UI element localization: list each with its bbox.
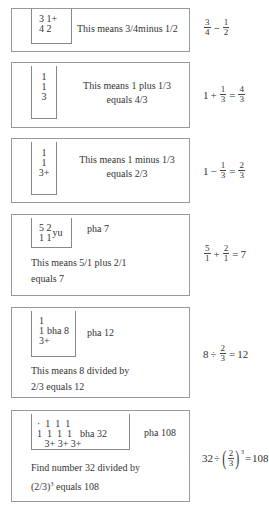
grid-row: 4 2 — [39, 24, 71, 34]
formula: 34 − 12 — [203, 18, 230, 37]
formula: 1 − 13 = 23 — [203, 161, 246, 180]
formula: 51 + 21 = 7 — [203, 244, 246, 263]
side-label: pha 7 — [87, 222, 109, 236]
formula: 1 + 13 = 43 — [203, 85, 246, 104]
counting-grid: 1 1 3 — [31, 66, 57, 119]
counting-grid: 3 1+ 4 2 — [31, 9, 72, 44]
card-3-4-minus-1-2: 3 1+ 4 2 This means 3/4minus 1/2 — [11, 8, 190, 52]
card-description: This means 3/4minus 1/2 — [77, 22, 178, 36]
card-32-divided-by-2-3-cubed: · 1 1 1 1 1 1 1 bha 32 3+ 3+ 3+ pha 108 … — [11, 410, 190, 502]
card-1-minus-1-3: 1 1 3+ This means 1 minus 1/3 equals 2/3 — [11, 138, 190, 203]
grid-row: 3+ — [32, 168, 56, 178]
fraction: 13 — [220, 85, 227, 104]
fraction: 23 — [238, 161, 245, 180]
fraction: 23 — [228, 449, 235, 468]
right-paren: ) — [236, 448, 240, 468]
fraction: 21 — [223, 244, 230, 263]
card-description: This means 1 minus 1/3 equals 2/3 — [67, 153, 187, 181]
grid-row: 1 1 — [39, 233, 52, 243]
fraction: 43 — [238, 85, 245, 104]
operator: − — [214, 22, 220, 34]
card-description: This means 8 divided by 2/3 equals 12 — [31, 363, 129, 395]
card-8-divided-by-2-3: 1 1 bha 8 3+ pha 12 This means 8 divided… — [11, 307, 190, 398]
card-5-1-plus-2-1: 5 2 1 1 yu pha 7 This means 5/1 plus 2/1… — [11, 214, 190, 296]
fraction: 12 — [223, 18, 230, 37]
fraction: 51 — [204, 244, 211, 263]
grid-suffix: yu — [53, 228, 63, 238]
card-1-plus-1-3: 1 1 3 This means 1 plus 1/3 equals 4/3 — [11, 62, 190, 128]
card-description: This means 1 plus 1/3 equals 4/3 — [67, 79, 187, 107]
left-paren: ( — [222, 448, 226, 468]
grid-suffix: bha 8 — [47, 326, 69, 336]
card-description: Find number 32 divided by (2/3)3 equals … — [31, 460, 140, 495]
fraction: 23 — [220, 344, 227, 363]
grid-suffix: bha 32 — [80, 429, 107, 439]
exponent: 3 — [241, 449, 244, 455]
grid-row: 3+ — [39, 336, 75, 346]
counting-grid: 1 1 bha 8 3+ — [31, 311, 76, 357]
fraction: 13 — [220, 161, 227, 180]
grid-row: 3 — [32, 92, 56, 102]
side-label: pha 108 — [144, 426, 176, 440]
card-description: This means 5/1 plus 2/1 equals 7 — [31, 255, 127, 287]
formula: 8 ÷ 23 = 12 — [203, 344, 248, 363]
counting-grid: 5 2 1 1 yu — [31, 218, 72, 248]
side-label: pha 12 — [87, 326, 114, 340]
fraction: 34 — [204, 18, 211, 37]
counting-grid: 1 1 3+ — [31, 142, 57, 195]
grid-row: 3+ 3+ 3+ — [37, 439, 129, 449]
counting-grid: · 1 1 1 1 1 1 1 bha 32 3+ 3+ 3+ — [31, 414, 130, 450]
formula: 32 ÷ ( 23 ) 3 = 108 — [202, 448, 269, 468]
